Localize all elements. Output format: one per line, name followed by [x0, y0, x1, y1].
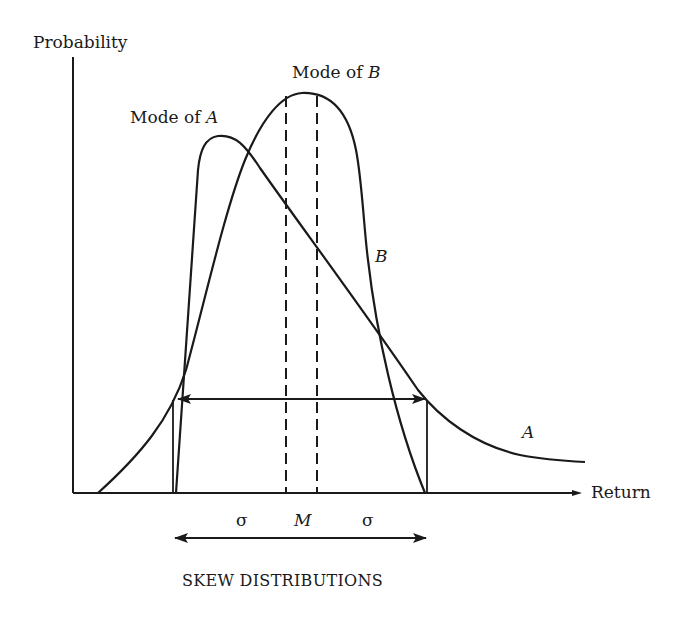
mode-b-var: B	[367, 62, 381, 82]
skew-distributions-diagram: Probability Return σ M σ Mode of A Mode …	[0, 0, 696, 619]
mode-b-label: Mode of B	[292, 62, 380, 82]
figure-title: SKEW DISTRIBUTIONS	[182, 571, 383, 590]
mode-a-prefix: Mode of	[130, 107, 206, 127]
curve-a-label: A	[520, 422, 534, 442]
x-axis-label: Return	[591, 482, 651, 502]
y-axis-label: Probability	[33, 32, 128, 52]
sigma-right-label: σ	[362, 510, 374, 530]
sigma-left-label: σ	[236, 510, 248, 530]
mean-label: M	[293, 510, 312, 530]
mode-b-prefix: Mode of	[292, 62, 368, 82]
curve-b	[98, 93, 425, 493]
curve-b-label: B	[374, 246, 388, 266]
x-axis-arrowhead	[572, 490, 582, 496]
mode-a-var: A	[204, 107, 218, 127]
mode-a-label: Mode of A	[130, 107, 218, 127]
